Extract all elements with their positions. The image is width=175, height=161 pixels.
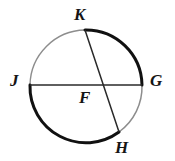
- point-label-F: F: [79, 89, 90, 106]
- point-label-G: G: [150, 72, 162, 89]
- point-label-H: H: [115, 139, 128, 156]
- circle-figure: K J G F H: [0, 0, 175, 161]
- segment-K-H: [85, 30, 119, 132]
- circle-diagram-canvas: [0, 0, 175, 161]
- point-label-K: K: [74, 6, 85, 23]
- arc-J-K: [30, 30, 85, 85]
- point-label-J: J: [10, 72, 19, 89]
- arc-G-H: [119, 85, 142, 132]
